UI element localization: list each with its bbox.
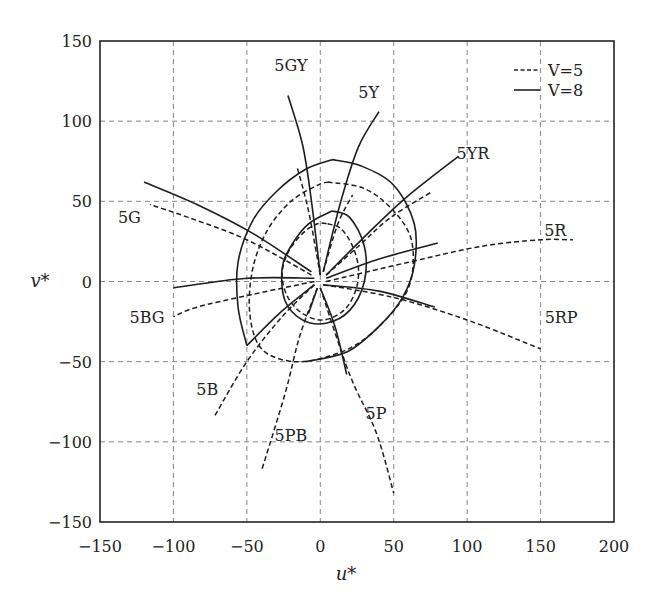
x-tick-label: 0 bbox=[315, 537, 325, 556]
hue-labels: 5GY5Y5YR5R5RP5P5PB5B5BG5G bbox=[118, 56, 578, 445]
y-tick-label: 100 bbox=[61, 112, 92, 131]
series-5p-v-5 bbox=[320, 288, 393, 493]
y-tick-label: −150 bbox=[48, 513, 92, 532]
x-tick-label: 150 bbox=[525, 537, 556, 556]
legend-label-v8: V=8 bbox=[547, 81, 583, 100]
hue-label-5gy: 5GY bbox=[274, 56, 308, 75]
hue-label-5r: 5R bbox=[544, 221, 567, 240]
series-5bg-v-5 bbox=[173, 282, 314, 317]
series-5g-v-8 bbox=[144, 182, 311, 272]
legend: V=5 V=8 bbox=[514, 61, 583, 100]
series-5b-v-5 bbox=[215, 285, 315, 416]
hue-label-5p: 5P bbox=[366, 404, 387, 423]
y-tick-labels: −150−100−50050100150 bbox=[48, 32, 92, 532]
hue-label-5g: 5G bbox=[118, 208, 141, 227]
y-tick-label: 150 bbox=[61, 32, 92, 51]
grid-lines bbox=[100, 41, 614, 522]
series-5p-v-8 bbox=[320, 288, 346, 375]
hue-label-5pb: 5PB bbox=[275, 426, 308, 445]
hue-label-5y: 5Y bbox=[358, 83, 379, 102]
series-5y-v-5 bbox=[323, 195, 352, 272]
series-5rp-v-5 bbox=[323, 285, 540, 349]
y-tick-label: 0 bbox=[82, 273, 92, 292]
x-tick-label: 50 bbox=[384, 537, 404, 556]
y-tick-label: −50 bbox=[58, 353, 92, 372]
series-5bg-v-8 bbox=[173, 278, 314, 288]
hue-label-5b: 5B bbox=[196, 380, 218, 399]
y-tick-label: −100 bbox=[48, 433, 92, 452]
munsell-uv-chart: −150−100−50050100150200 −150−100−5005010… bbox=[0, 0, 658, 598]
y-axis-label: v* bbox=[30, 270, 49, 291]
x-tick-label: 200 bbox=[599, 537, 630, 556]
x-tick-labels: −150−100−50050100150200 bbox=[78, 537, 629, 556]
x-tick-label: −50 bbox=[230, 537, 264, 556]
series-v-8-chroma-contour-outer bbox=[306, 160, 417, 362]
series-5g-v-5 bbox=[150, 205, 312, 276]
hue-label-5rp: 5RP bbox=[545, 308, 578, 327]
x-tick-label: −150 bbox=[78, 537, 122, 556]
y-tick-label: 50 bbox=[72, 192, 92, 211]
series-v-5-chroma-contour-outer bbox=[249, 182, 413, 362]
x-tick-label: 100 bbox=[452, 537, 483, 556]
x-axis-label: u* bbox=[336, 563, 357, 584]
series-5r-v-8 bbox=[326, 243, 438, 278]
x-tick-label: −100 bbox=[151, 537, 195, 556]
hue-label-5yr: 5YR bbox=[457, 144, 491, 163]
hue-label-5bg: 5BG bbox=[129, 308, 164, 327]
legend-label-v5: V=5 bbox=[547, 61, 583, 80]
series-5r-v-5 bbox=[326, 239, 573, 281]
data-series bbox=[144, 96, 573, 494]
